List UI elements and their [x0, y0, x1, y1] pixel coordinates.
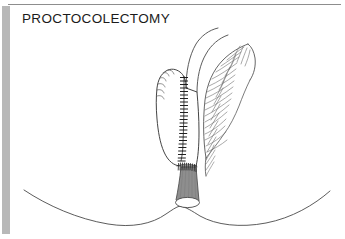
figure-root: PROCTOCOLECTOMY — [0, 0, 345, 239]
anal-orifice — [176, 197, 200, 207]
proctocolectomy-illustration — [0, 0, 345, 239]
left-gray-bar — [2, 6, 10, 234]
figure-title: PROCTOCOLECTOMY — [22, 11, 170, 27]
